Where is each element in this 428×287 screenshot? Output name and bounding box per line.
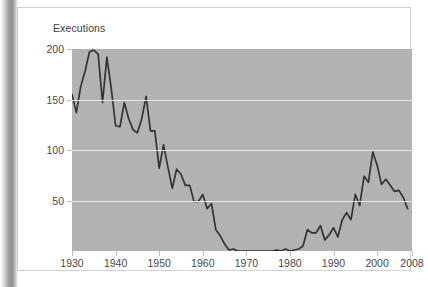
gridline-100 — [72, 150, 412, 151]
x-tick-mark-2008 — [412, 251, 413, 256]
y-tick-label-200: 200 — [30, 43, 64, 55]
gridline-50 — [72, 201, 412, 202]
x-tick-mark-2000 — [377, 251, 378, 256]
gridline-150 — [72, 100, 412, 101]
x-tick-mark-1930 — [72, 251, 73, 256]
page-edge-shadow — [0, 0, 18, 287]
x-tick-mark-1990 — [334, 251, 335, 256]
x-tick-mark-1950 — [159, 251, 160, 256]
figure-container: Executions 50100150200193019401950196019… — [17, 7, 411, 271]
y-tick-mark-100 — [67, 150, 71, 151]
y-tick-label-50: 50 — [30, 195, 64, 207]
y-tick-mark-50 — [67, 201, 71, 202]
x-tick-label-1930: 1930 — [52, 257, 92, 269]
y-tick-mark-200 — [67, 49, 71, 50]
x-tick-label-1940: 1940 — [96, 257, 136, 269]
x-tick-mark-1970 — [246, 251, 247, 256]
x-tick-mark-1960 — [203, 251, 204, 256]
plot-area — [72, 49, 412, 251]
x-tick-label-1970: 1970 — [226, 257, 266, 269]
x-tick-label-1980: 1980 — [270, 257, 310, 269]
x-tick-label-1960: 1960 — [183, 257, 223, 269]
y-tick-label-100: 100 — [30, 144, 64, 156]
y-tick-label-150: 150 — [30, 94, 64, 106]
x-tick-label-1950: 1950 — [139, 257, 179, 269]
x-tick-label-1990: 1990 — [314, 257, 354, 269]
y-axis-title: Executions — [53, 22, 105, 34]
x-tick-label-2008: 2008 — [392, 257, 428, 269]
y-tick-mark-150 — [67, 100, 71, 101]
x-tick-mark-1980 — [290, 251, 291, 256]
x-tick-mark-1940 — [116, 251, 117, 256]
